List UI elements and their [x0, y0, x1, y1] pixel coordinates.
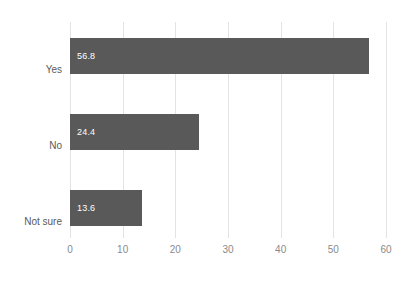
category-label-1: No — [0, 140, 62, 151]
bar-value-not-sure: 13.6 — [77, 203, 95, 213]
gridline-60 — [386, 22, 387, 238]
x-tick-20: 20 — [170, 244, 181, 255]
plot-area: 56.8 24.4 13.6 — [70, 22, 386, 238]
bar-value-no: 24.4 — [77, 127, 95, 137]
bar-yes[interactable] — [70, 38, 369, 74]
cropped-title-remnant — [70, 0, 310, 6]
x-axis-tick-labels: 0 10 20 30 40 50 60 — [70, 244, 386, 264]
category-label-2: Not sure — [0, 216, 62, 227]
x-tick-0: 0 — [67, 244, 73, 255]
category-label-0: Yes — [0, 64, 62, 75]
bar-chart: Yes No Not sure 56.8 24.4 13.6 0 10 20 3… — [0, 0, 408, 283]
category-axis-labels: Yes No Not sure — [0, 22, 62, 238]
x-tick-60: 60 — [380, 244, 391, 255]
x-tick-30: 30 — [222, 244, 233, 255]
x-tick-10: 10 — [117, 244, 128, 255]
bar-value-yes: 56.8 — [77, 51, 95, 61]
x-tick-50: 50 — [328, 244, 339, 255]
x-tick-40: 40 — [275, 244, 286, 255]
